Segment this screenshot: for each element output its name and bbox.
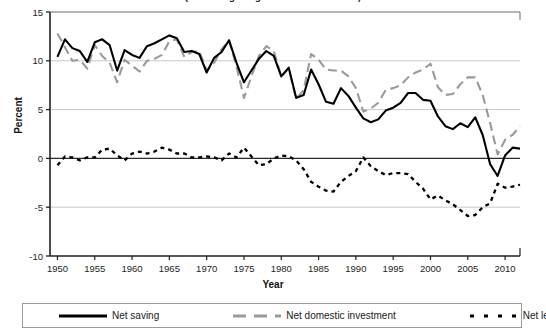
x-axis-ticks: 1950195519601965197019751980198519901995… (47, 256, 516, 274)
chart-legend: Net savingNet domestic investmentNet len… (22, 303, 522, 328)
svg-text:1995: 1995 (383, 263, 404, 274)
legend-label-2: Net lending or net borrowing (-) (523, 310, 546, 321)
svg-text:1990: 1990 (345, 263, 366, 274)
plot-area: -10-5051015 1950195519601965197019751980… (0, 0, 546, 300)
svg-text:1985: 1985 (308, 263, 329, 274)
svg-text:15: 15 (32, 7, 43, 18)
svg-text:1980: 1980 (271, 263, 292, 274)
svg-text:1960: 1960 (121, 263, 142, 274)
svg-text:0: 0 (38, 153, 43, 164)
series-line-net-saving (57, 35, 520, 176)
svg-text:1970: 1970 (196, 263, 217, 274)
svg-text:1950: 1950 (47, 263, 68, 274)
svg-text:1965: 1965 (159, 263, 180, 274)
y-axis-ticks: -10-5051015 (29, 7, 50, 262)
net-saving-chart: (Percentage of gross national income) Pe… (0, 0, 546, 330)
legend-item-1[interactable]: Net domestic investment (231, 310, 396, 321)
dashed-line-swatch (231, 311, 283, 321)
svg-text:2005: 2005 (457, 263, 478, 274)
svg-text:2000: 2000 (420, 263, 441, 274)
svg-text:1975: 1975 (233, 263, 254, 274)
solid-line-swatch (57, 311, 109, 321)
legend-item-2[interactable]: Net lending or net borrowing (-) (468, 310, 546, 321)
svg-text:5: 5 (38, 104, 43, 115)
legend-item-0[interactable]: Net saving (57, 310, 159, 321)
legend-label-1: Net domestic investment (286, 310, 396, 321)
x-axis-label: Year (0, 279, 546, 290)
plot-frame (50, 12, 520, 256)
svg-text:-5: -5 (35, 202, 43, 213)
svg-text:2010: 2010 (495, 263, 516, 274)
svg-text:10: 10 (32, 55, 43, 66)
legend-label-0: Net saving (112, 310, 159, 321)
svg-text:-10: -10 (29, 251, 43, 262)
dotted-line-swatch (468, 311, 520, 321)
gridlines (50, 61, 520, 207)
svg-text:1955: 1955 (84, 263, 105, 274)
